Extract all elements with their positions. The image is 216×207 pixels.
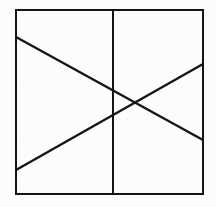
descending-diagonal-line [16,37,203,140]
ascending-diagonal-line [16,64,203,170]
line-figure-svg: Square with vertical divider and two cro… [0,0,216,207]
square-border [16,10,203,194]
figure-root: Square with vertical divider and two cro… [0,0,216,207]
